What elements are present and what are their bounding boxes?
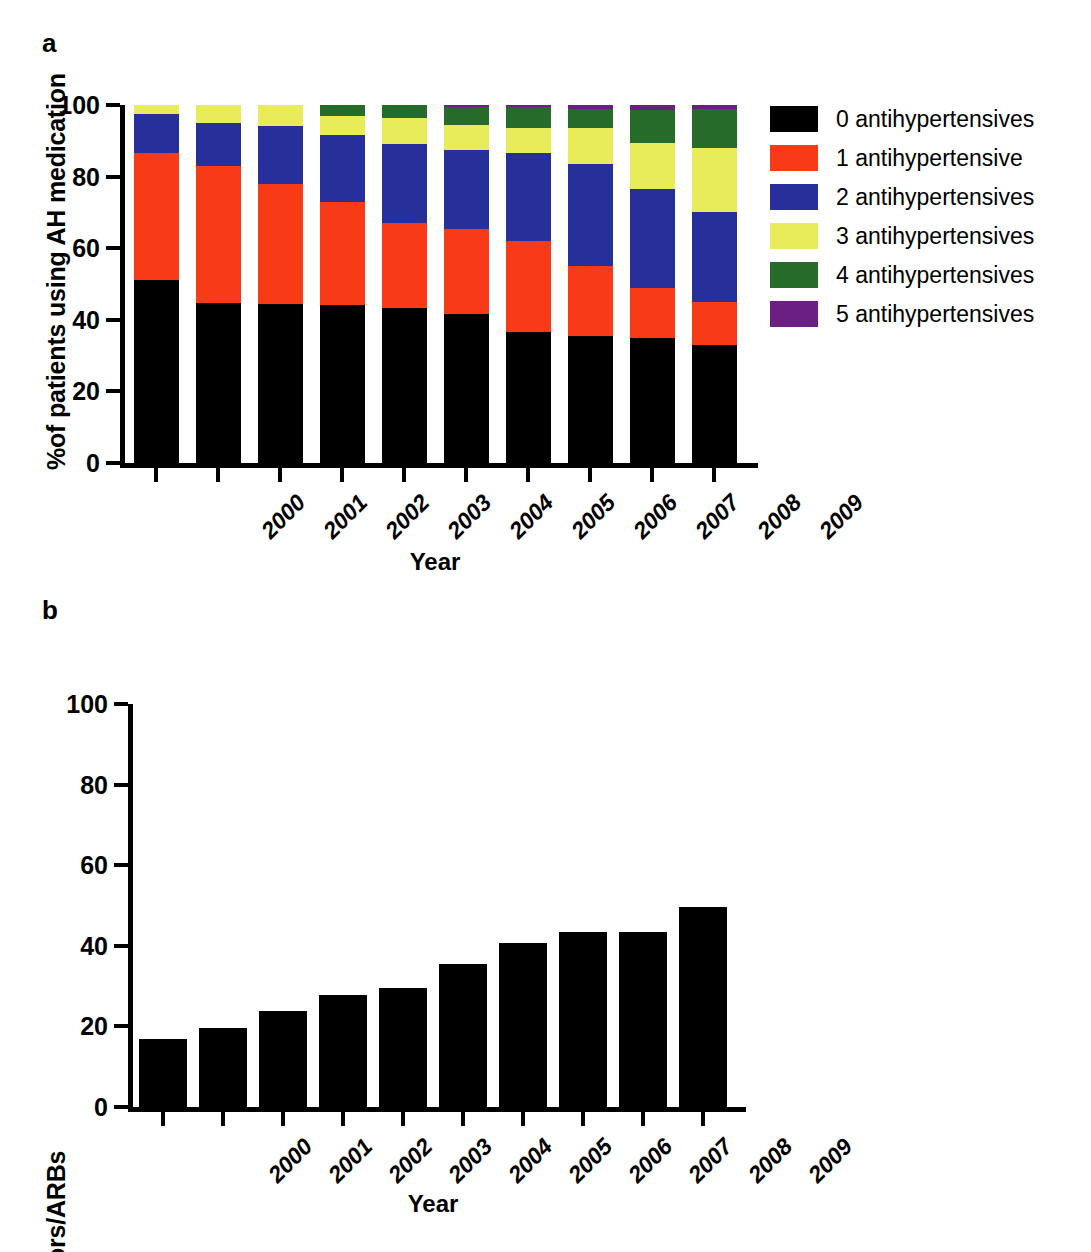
stacked-bar-segment <box>444 229 489 315</box>
stacked-bar-segment <box>506 105 551 107</box>
y-axis-tick-label: 80 <box>23 770 108 799</box>
y-axis-tick-label: 0 <box>23 1093 108 1122</box>
stacked-bar-segment <box>258 184 303 304</box>
stacked-bar <box>444 105 489 463</box>
stacked-bar-segment <box>382 105 427 118</box>
y-axis-tick <box>106 389 120 393</box>
stacked-bar-segment <box>134 280 179 463</box>
x-axis-tick <box>341 1112 345 1126</box>
stacked-bar <box>134 105 179 463</box>
stacked-bar-segment <box>320 105 365 116</box>
legend-item-label: 2 antihypertensives <box>836 184 1034 211</box>
x-axis-tick <box>641 1112 645 1126</box>
legend-item: 1 antihypertensive <box>770 139 1034 177</box>
legend-item-label: 0 antihypertensives <box>836 106 1034 133</box>
legend-item-label: 5 antihypertensives <box>836 301 1034 328</box>
stacked-bar-segment <box>630 189 675 287</box>
stacked-bar <box>258 105 303 463</box>
x-axis-tick <box>278 468 282 482</box>
y-axis-tick <box>106 103 120 107</box>
legend-color-swatch <box>770 301 818 327</box>
stacked-bar-segment <box>382 118 427 145</box>
stacked-bar <box>630 105 675 463</box>
stacked-bar-segment <box>134 114 179 153</box>
y-axis-tick <box>114 1024 128 1028</box>
stacked-bar-segment <box>320 135 365 201</box>
legend-item: 3 antihypertensives <box>770 217 1034 255</box>
stacked-bar-segment <box>630 110 675 142</box>
x-axis-tick <box>281 1112 285 1126</box>
y-axis-tick-label: 100 <box>15 91 100 120</box>
stacked-bar-segment <box>630 143 675 190</box>
y-axis-tick-label: 100 <box>23 690 108 719</box>
stacked-bar-segment <box>196 303 241 463</box>
x-axis-tick <box>402 468 406 482</box>
x-axis-tick <box>216 468 220 482</box>
bar <box>619 932 667 1107</box>
legend-item-label: 1 antihypertensive <box>836 145 1023 172</box>
stacked-bar-segment <box>568 164 613 266</box>
y-axis-tick <box>106 461 120 465</box>
x-axis-tick <box>154 468 158 482</box>
stacked-bar-segment <box>568 105 613 109</box>
x-axis-tick <box>526 468 530 482</box>
stacked-bar-segment <box>320 116 365 136</box>
legend-item: 2 antihypertensives <box>770 178 1034 216</box>
y-axis-line <box>128 704 133 1112</box>
stacked-bar-segment <box>320 305 365 463</box>
stacked-bar-segment <box>692 212 737 302</box>
stacked-bar-segment <box>134 105 179 114</box>
stacked-bar-segment <box>630 105 675 110</box>
stacked-bar-segment <box>630 288 675 339</box>
stacked-bar <box>692 105 737 463</box>
legend-color-swatch <box>770 106 818 132</box>
stacked-bar <box>320 105 365 463</box>
stacked-bar <box>196 105 241 463</box>
stacked-bar-segment <box>630 338 675 463</box>
y-axis-tick-label: 20 <box>23 1012 108 1041</box>
y-axis-tick <box>106 318 120 322</box>
stacked-bar-segment <box>692 109 737 148</box>
stacked-bar-segment <box>692 148 737 212</box>
stacked-bar-segment <box>692 302 737 345</box>
x-axis-tick <box>650 468 654 482</box>
stacked-bar-segment <box>258 105 303 126</box>
stacked-bar-segment <box>692 105 737 109</box>
stacked-bar-segment <box>320 202 365 306</box>
x-axis-tick <box>161 1112 165 1126</box>
y-axis-tick-label: 20 <box>15 377 100 406</box>
stacked-bar-segment <box>196 123 241 166</box>
bar <box>559 932 607 1107</box>
x-axis-tick <box>464 468 468 482</box>
stacked-bar-segment <box>444 105 489 107</box>
stacked-bar-segment <box>506 128 551 153</box>
bar <box>499 943 547 1107</box>
panel-b-bar-chart: b %of patients using ACE inhibitors/ARBs… <box>0 560 1091 1252</box>
x-axis-tick <box>461 1112 465 1126</box>
stacked-bar <box>506 105 551 463</box>
stacked-bar-segment <box>382 308 427 463</box>
legend-color-swatch <box>770 223 818 249</box>
stacked-bar-segment <box>506 107 551 128</box>
y-axis-tick-label: 40 <box>23 931 108 960</box>
panel-b-plot-area: 0204060801002000200120022003200420052006… <box>0 560 1091 1252</box>
x-axis-tick <box>521 1112 525 1126</box>
bar <box>439 964 487 1107</box>
stacked-bar-segment <box>444 150 489 229</box>
legend-item: 4 antihypertensives <box>770 256 1034 294</box>
legend-item: 5 antihypertensives <box>770 295 1034 333</box>
y-axis-tick-label: 0 <box>15 449 100 478</box>
legend-item-label: 3 antihypertensives <box>836 223 1034 250</box>
y-axis-tick <box>114 1105 128 1109</box>
bar <box>259 1011 307 1107</box>
y-axis-tick-label: 80 <box>15 162 100 191</box>
y-axis-tick-label: 60 <box>15 234 100 263</box>
y-axis-tick-label: 40 <box>15 305 100 334</box>
x-axis-tick <box>401 1112 405 1126</box>
y-axis-tick <box>114 944 128 948</box>
stacked-bar-segment <box>506 241 551 332</box>
legend-color-swatch <box>770 262 818 288</box>
stacked-bar-segment <box>444 125 489 150</box>
bar <box>319 995 367 1107</box>
stacked-bar-segment <box>382 144 427 223</box>
